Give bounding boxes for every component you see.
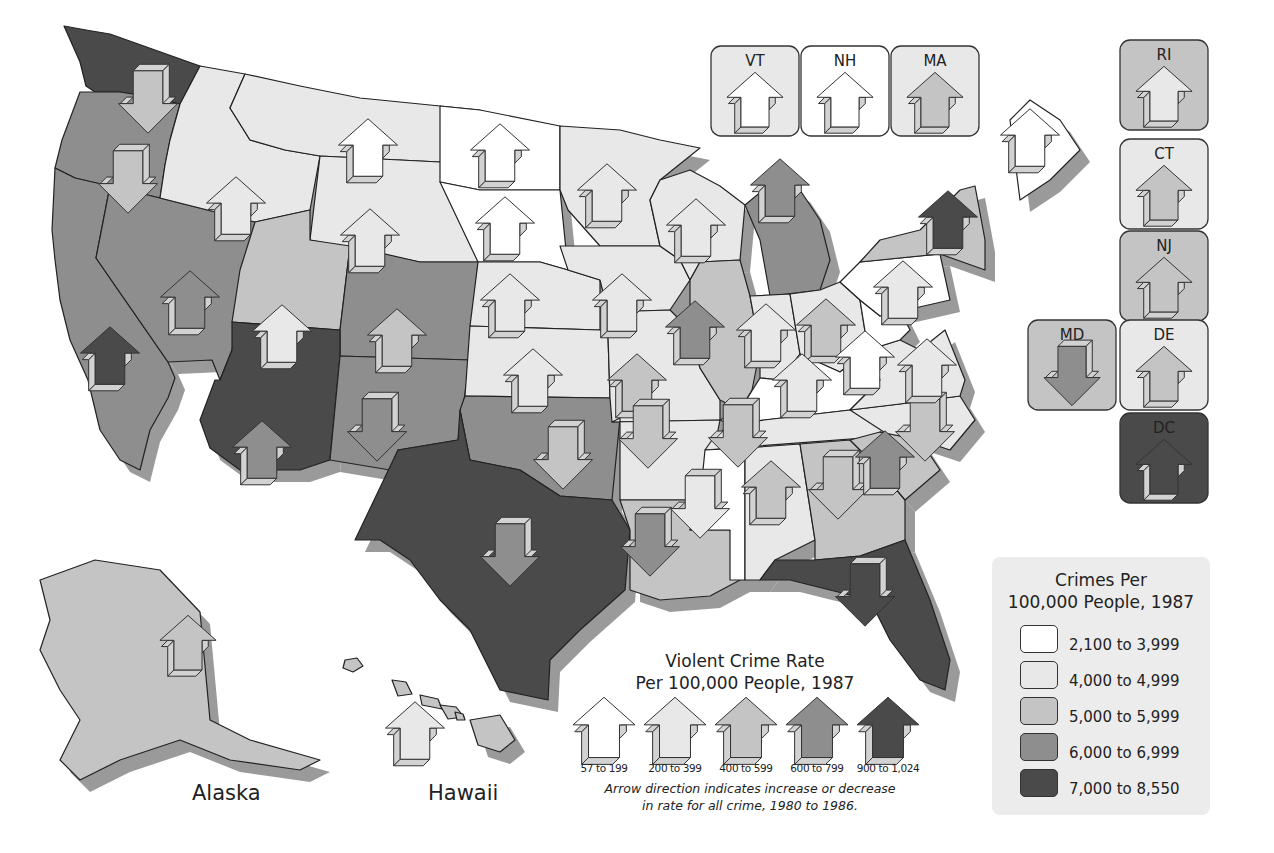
state-box-label: MA: [923, 52, 947, 70]
legend-row-c4: 6,000 to 6,999: [1020, 731, 1210, 763]
state-box-vt: VT: [711, 46, 799, 136]
legend-label: 5,000 to 5,999: [1069, 708, 1179, 726]
violent-legend-item-v4: 600 to 799: [786, 697, 848, 774]
violent-legend-label: 400 to 599: [719, 762, 772, 774]
state-box-label: VT: [745, 52, 765, 70]
arrow-up-icon: [857, 697, 919, 764]
hawaii-island: [420, 695, 442, 709]
violent-legend-title-line-1: Violent Crime Rate: [600, 650, 890, 672]
hawaii-label: Hawaii: [428, 781, 498, 805]
state-box-label: NJ: [1156, 237, 1172, 255]
state-box-de: DE: [1120, 320, 1208, 410]
alaska-label: Alaska: [192, 781, 261, 805]
violent-legend-label: 900 to 1,024: [857, 762, 920, 774]
legend-swatch: [1020, 625, 1058, 653]
state-box-ri: RI: [1120, 40, 1208, 130]
legend-swatch: [1020, 769, 1058, 797]
state-box-label: RI: [1157, 46, 1172, 64]
state-box-nj: NJ: [1120, 231, 1208, 321]
state-box-ma: MA: [891, 46, 979, 136]
state-box-label: CT: [1154, 145, 1174, 163]
state-box-label: NH: [834, 52, 857, 70]
state-box-ct: CT: [1120, 139, 1208, 229]
arrow-note-line-2: in rate for all crime, 1980 to 1986.: [560, 797, 940, 814]
legend-label: 6,000 to 6,999: [1069, 744, 1179, 762]
legend-swatch: [1020, 733, 1058, 761]
arrow-note-line-1: Arrow direction indicates increase or de…: [560, 780, 940, 797]
state-box-label: DC: [1153, 419, 1175, 437]
crime-legend-title-line-2: 100,000 People, 1987: [992, 591, 1210, 613]
arrow-up-icon: [644, 697, 706, 764]
violent-legend-item-v3: 400 to 599: [715, 697, 777, 774]
legend-swatch: [1020, 697, 1058, 725]
arrow-up-icon: [786, 697, 848, 764]
violent-legend-label: 600 to 799: [790, 762, 843, 774]
crime-rate-legend: Crimes Per 100,000 People, 1987 2,100 to…: [992, 557, 1210, 815]
arrow-up-icon: [715, 697, 777, 764]
violent-crime-legend-title: Violent Crime Rate Per 100,000 People, 1…: [600, 650, 890, 694]
violent-legend-label: 200 to 399: [648, 762, 701, 774]
legend-label: 2,100 to 3,999: [1069, 636, 1179, 654]
state-box-label: DE: [1153, 326, 1174, 344]
state-box-nh: NH: [801, 46, 889, 136]
violent-legend-item-v2: 200 to 399: [644, 697, 706, 774]
arrow-up-icon: [573, 697, 635, 764]
legend-label: 4,000 to 4,999: [1069, 672, 1179, 690]
legend-row-c2: 4,000 to 4,999: [1020, 659, 1210, 691]
hawaii-island: [455, 712, 465, 720]
violent-legend-item-v1: 57 to 199: [573, 697, 635, 774]
arrow-legend: 57 to 199200 to 399400 to 599600 to 7999…: [573, 697, 920, 774]
violent-legend-title-line-2: Per 100,000 People, 1987: [600, 672, 890, 694]
state-box-dc: DC: [1120, 413, 1208, 503]
violent-legend-label: 57 to 199: [580, 762, 627, 774]
violent-legend-item-v5: 900 to 1,024: [857, 697, 920, 774]
legend-row-c5: 7,000 to 8,550: [1020, 767, 1210, 799]
legend-row-c1: 2,100 to 3,999: [1020, 623, 1210, 655]
legend-swatch: [1020, 661, 1058, 689]
hawaii-island: [343, 658, 363, 672]
crime-legend-title-line-1: Crimes Per: [992, 569, 1210, 591]
arrow-up-icon: [385, 702, 444, 766]
legend-row-c3: 5,000 to 5,999: [1020, 695, 1210, 727]
arrow-direction-note: Arrow direction indicates increase or de…: [560, 780, 940, 814]
crime-legend-title: Crimes Per 100,000 People, 1987: [992, 569, 1210, 613]
state-box-md: MD: [1028, 320, 1116, 410]
legend-label: 7,000 to 8,550: [1069, 780, 1179, 798]
hawaii-island: [392, 680, 412, 696]
